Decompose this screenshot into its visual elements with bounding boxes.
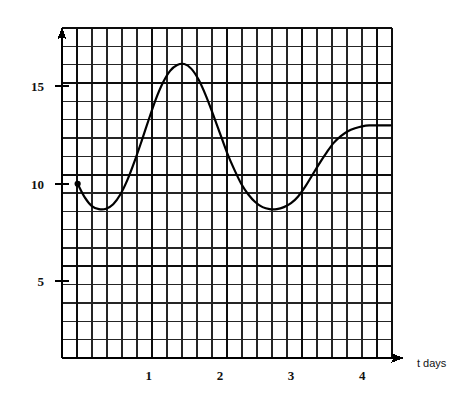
y-axis-tick-label: 15 bbox=[31, 79, 45, 94]
chart-background bbox=[0, 0, 466, 407]
graph-figure: 510151234 t days bbox=[0, 0, 466, 407]
chart-canvas: 510151234 t days bbox=[0, 0, 466, 407]
x-axis-tick-label: 3 bbox=[288, 368, 295, 383]
curve-start-point-marker bbox=[75, 181, 81, 187]
y-axis-tick-label: 5 bbox=[38, 274, 45, 289]
x-axis-title-label: t days bbox=[417, 357, 447, 369]
x-axis-tick-label: 4 bbox=[359, 368, 366, 383]
x-axis-tick-label: 1 bbox=[146, 368, 153, 383]
y-axis-tick-label: 10 bbox=[31, 177, 44, 192]
x-axis-tick-label: 2 bbox=[217, 368, 224, 383]
